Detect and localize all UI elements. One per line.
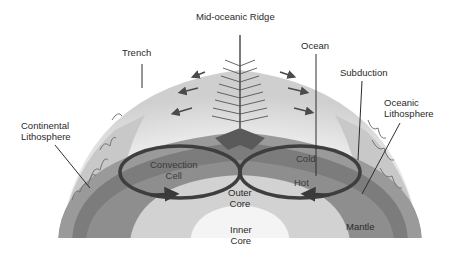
label-inner-core-line1: Inner [230,224,252,235]
label-cold: Cold [296,153,316,164]
convection-arrow-left [150,194,172,195]
label-trench: Trench [122,47,151,58]
label-mantle: Mantle [346,221,375,232]
label-continental-lithosphere-line2: Lithosphere [21,131,71,142]
label-oceanic-lithosphere-line1: Oceanic [384,97,434,108]
label-continental-lithosphere: Continental Lithosphere [21,120,71,142]
label-subduction: Subduction [340,67,388,78]
label-outer-core: Outer Core [228,187,252,209]
label-outer-core-line1: Outer [228,187,252,198]
label-continental-lithosphere-line1: Continental [21,120,71,131]
convection-arrow-right [308,194,330,195]
label-outer-core-line2: Core [228,198,252,209]
label-mid-oceanic-ridge: Mid-oceanic Ridge [196,11,275,22]
label-ocean: Ocean [301,40,329,51]
label-inner-core: Inner Core [230,224,252,246]
label-hot: Hot [294,177,309,188]
label-convection-line1: Convection [150,159,198,170]
label-oceanic-lithosphere: Oceanic Lithosphere [384,97,434,119]
label-convection-line2: Cell [150,170,198,181]
label-convection-cell: Convection Cell [150,159,198,181]
label-oceanic-lithosphere-line2: Lithosphere [384,108,434,119]
label-inner-core-line2: Core [230,235,252,246]
